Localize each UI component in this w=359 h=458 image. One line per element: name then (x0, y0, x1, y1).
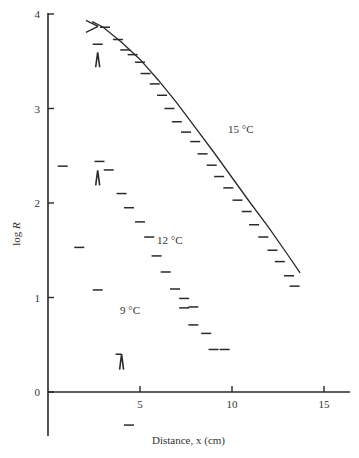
y-tick-label: 0 (35, 386, 41, 398)
y-axis-title-variable: R (10, 222, 22, 230)
x-tick-label: 5 (137, 398, 143, 410)
series-label-12c: 12 °C (157, 234, 183, 246)
y-axis-title-prefix: log (10, 229, 22, 246)
series-label-9c: 9 °C (120, 304, 140, 316)
y-tick-label: 3 (35, 103, 41, 115)
y-tick-label: 2 (35, 197, 41, 209)
x-axis-ticks: 51015 (137, 386, 330, 410)
x-tick-label: 15 (319, 398, 331, 410)
y-axis-title: log R (10, 222, 22, 246)
series-label-15c: 15 °C (228, 123, 254, 135)
arrow-wedge-bar-icon (116, 354, 124, 369)
arrow-wedge-icon (96, 170, 100, 185)
y-axis-ticks: 01234 (35, 8, 55, 398)
y-tick-label: 1 (35, 292, 41, 304)
fit-curves (92, 22, 300, 273)
arrow-wedge-icon (96, 52, 100, 67)
x-axis-title: Distance, x (cm) (152, 434, 225, 447)
data-points (58, 27, 300, 425)
fit-curve-15c (92, 22, 300, 273)
annotations (86, 20, 124, 369)
axes (48, 13, 350, 436)
chart: 01234 51015 15 °C 12 °C 9 °C Distance, x… (0, 0, 359, 458)
y-tick-label: 4 (35, 8, 41, 20)
x-tick-label: 10 (227, 398, 239, 410)
